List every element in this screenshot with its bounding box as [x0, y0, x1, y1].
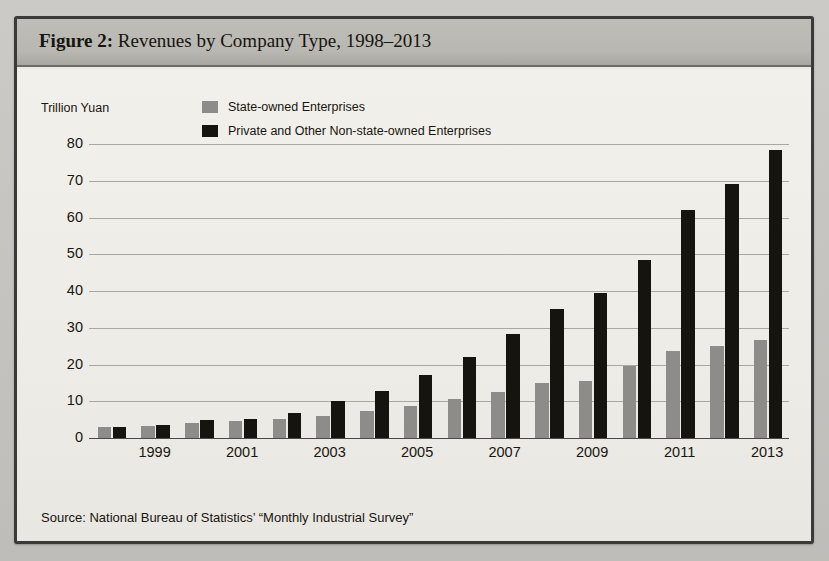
y-axis-tick-label: 10	[43, 392, 83, 408]
bar-2001-state-owned	[229, 421, 243, 438]
figure-source-note: Source: National Bureau of Statistics’ “…	[41, 510, 413, 525]
x-axis-tick-label: 2011	[664, 444, 695, 460]
x-axis-tick-label: 2009	[576, 444, 608, 460]
y-axis-title: Trillion Yuan	[41, 101, 109, 115]
bar-2000-private	[200, 420, 214, 438]
y-axis-tick-label: 30	[43, 319, 83, 335]
legend-item: State-owned Enterprises	[202, 97, 491, 116]
bar-2008-private	[550, 309, 564, 438]
bar-1999-state-owned	[141, 426, 155, 438]
bar-2004-private	[375, 391, 389, 438]
bar-2007-state-owned	[491, 392, 505, 438]
y-axis-tick-label: 40	[43, 282, 83, 298]
bar-2003-private	[331, 401, 345, 438]
bar-2013-private	[769, 150, 783, 438]
plot-canvas: 0102030405060708019992001200320052007200…	[89, 126, 789, 438]
chart-area: Trillion Yuan State-owned EnterprisesPri…	[17, 69, 811, 541]
bar-2009-state-owned	[579, 381, 593, 438]
gridline	[89, 181, 789, 182]
bar-1998-private	[113, 427, 127, 438]
bar-2010-private	[638, 260, 652, 438]
y-axis-tick-label: 70	[43, 172, 83, 188]
bar-2010-state-owned	[623, 366, 637, 438]
bar-2006-state-owned	[448, 399, 462, 438]
scanned-page-background: concerns and their need to account forth…	[0, 0, 829, 561]
bar-2012-private	[725, 184, 739, 438]
legend-label: State-owned Enterprises	[228, 100, 365, 114]
figure-box: Figure 2: Revenues by Company Type, 1998…	[14, 16, 814, 544]
bar-2003-state-owned	[316, 416, 330, 438]
x-axis-tick-label: 2007	[488, 444, 520, 460]
bar-2008-state-owned	[535, 383, 549, 438]
y-axis-tick-label: 20	[43, 356, 83, 372]
y-axis-tick-label: 0	[43, 429, 83, 445]
bar-1998-state-owned	[98, 427, 112, 438]
bar-2000-state-owned	[185, 423, 199, 438]
bar-2002-state-owned	[273, 419, 287, 438]
bar-2013-state-owned	[754, 340, 768, 438]
x-axis-line	[89, 438, 789, 439]
bar-2006-private	[463, 357, 477, 438]
x-axis-tick-label: 2013	[751, 444, 783, 460]
bar-2011-private	[681, 210, 695, 438]
bar-2004-state-owned	[360, 411, 374, 438]
x-axis-tick-label: 1999	[138, 444, 170, 460]
bar-2005-state-owned	[404, 406, 418, 438]
gridline	[89, 144, 789, 145]
x-axis-tick-label: 2003	[313, 444, 345, 460]
bar-1999-private	[156, 425, 170, 438]
bar-2007-private	[506, 334, 520, 438]
bar-2011-state-owned	[666, 351, 680, 438]
figure-title-text: Revenues by Company Type, 1998–2013	[113, 30, 431, 51]
legend-swatch-icon	[202, 101, 218, 113]
bar-2012-state-owned	[710, 346, 724, 438]
bar-2005-private	[419, 375, 433, 438]
x-axis-tick-label: 2005	[401, 444, 433, 460]
bar-2001-private	[244, 419, 258, 438]
bar-2002-private	[288, 413, 302, 438]
x-axis-tick-label: 2001	[226, 444, 258, 460]
y-axis-tick-label: 60	[43, 209, 83, 225]
bar-2009-private	[594, 293, 608, 438]
figure-title: Figure 2: Revenues by Company Type, 1998…	[39, 30, 431, 52]
figure-number-label: Figure 2:	[39, 30, 113, 51]
y-axis-tick-label: 50	[43, 245, 83, 261]
y-axis-tick-label: 80	[43, 135, 83, 151]
figure-title-band: Figure 2: Revenues by Company Type, 1998…	[17, 19, 811, 67]
